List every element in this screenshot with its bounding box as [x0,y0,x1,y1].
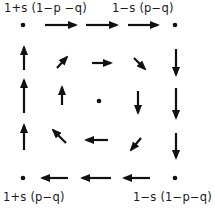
corner-top-left-dot [21,23,26,28]
diagram-canvas [0,0,215,211]
center-dot [97,99,102,104]
inner-bottom-right-arrow-icon [131,138,141,150]
label-top-left: 1+s (1−p −q) [4,2,87,15]
inner-top-right-arrow-icon [134,58,145,69]
inner-top-left-arrow-icon [57,57,67,68]
vector-field-diagram: 1+s (1−p −q) 1−s (p−q) 1+s (p−q) 1−s (1−… [0,0,215,211]
inner-bottom-left-arrow-icon [53,130,66,143]
dot-layer [21,23,178,181]
label-bottom-right: 1−s (1−p−q) [133,191,212,204]
corner-top-right-dot [173,23,178,28]
corner-bottom-left-dot [21,176,26,181]
corner-bottom-right-dot [173,176,178,181]
label-bottom-left: 1+s (p−q) [3,191,65,204]
label-top-right: 1−s (p−q) [112,2,174,15]
